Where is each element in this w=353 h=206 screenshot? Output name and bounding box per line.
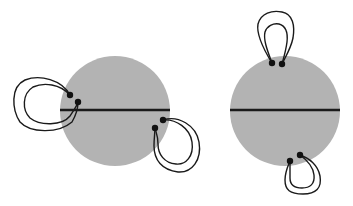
left-disk-group (14, 56, 200, 172)
attachment-dot (160, 117, 166, 123)
right-disk-group (230, 11, 340, 194)
attachment-dot (297, 152, 303, 158)
attachment-dot (152, 125, 158, 131)
attachment-dot (67, 92, 73, 98)
attachment-dot (269, 60, 275, 66)
attachment-dot (279, 61, 285, 67)
attachment-dot (287, 158, 293, 164)
diagram-canvas (0, 0, 353, 206)
attachment-dot (75, 99, 81, 105)
